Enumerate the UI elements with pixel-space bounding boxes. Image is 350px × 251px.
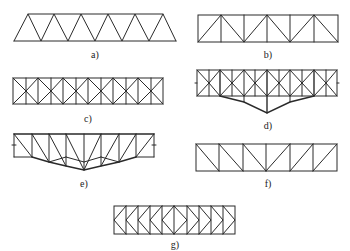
label-g: g) bbox=[171, 239, 179, 250]
truss-g bbox=[114, 206, 235, 234]
label-d: d) bbox=[264, 120, 272, 131]
label-e: e) bbox=[80, 178, 88, 189]
label-f: f) bbox=[265, 178, 272, 189]
label-c: c) bbox=[84, 113, 92, 124]
truss-f bbox=[196, 144, 337, 171]
truss-b bbox=[198, 15, 338, 42]
label-a: a) bbox=[91, 49, 99, 60]
label-b: b) bbox=[264, 49, 272, 60]
truss-e bbox=[12, 134, 156, 170]
truss-c bbox=[13, 78, 163, 104]
truss-a bbox=[14, 14, 176, 41]
truss-diagram bbox=[0, 0, 350, 251]
truss-d bbox=[195, 70, 339, 113]
